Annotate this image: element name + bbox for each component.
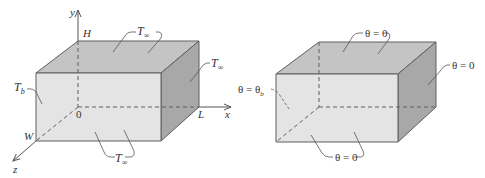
x-axis-label: x (224, 108, 230, 120)
origin-label: 0 (76, 108, 82, 120)
bottom-temp-label: T∞ (115, 151, 128, 167)
height-label: H (82, 27, 92, 39)
right-base-label: θ = θb (238, 83, 264, 98)
diagram-canvas: y x z H L W 0 T∞ T∞ T∞ Tb (0, 0, 485, 178)
right-top-label: θ = 0 (365, 27, 388, 39)
width-label: W (24, 130, 34, 142)
z-axis (13, 141, 36, 161)
top-temp-label: T∞ (137, 24, 150, 40)
left-figure: y x z H L W 0 T∞ T∞ T∞ Tb (12, 6, 231, 175)
right-right-label: θ = 0 (452, 59, 475, 71)
base-temp-label: Tb (14, 80, 25, 96)
right-front-face (276, 74, 398, 142)
right-figure: θ = 0 θ = 0 θ = 0 θ = θb (238, 27, 475, 163)
right-temp-label: T∞ (211, 56, 224, 72)
right-bottom-label: θ = 0 (335, 151, 358, 163)
length-label: L (197, 108, 204, 120)
y-axis-label: y (69, 6, 75, 18)
z-axis-label: z (12, 163, 18, 175)
